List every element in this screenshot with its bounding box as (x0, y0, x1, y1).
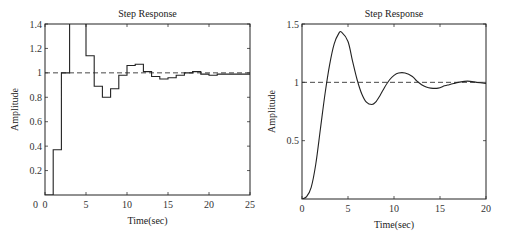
right-step-response-chart: Step ResponseTime(sec)Amplitude051015200… (266, 8, 491, 231)
y-tick-label: 0.2 (30, 165, 43, 176)
chart-title: Step Response (365, 8, 424, 19)
plot-frame (45, 24, 250, 195)
response-curve (45, 0, 250, 195)
left-step-response-chart: Step ResponseTime(sec)Amplitude051015202… (9, 0, 255, 227)
x-tick-label: 15 (163, 199, 173, 210)
x-tick-label: 10 (389, 203, 399, 214)
x-tick-label: 0 (300, 203, 305, 214)
x-axis-label: Time(sec) (374, 219, 414, 231)
y-axis-label: Amplitude (9, 88, 20, 131)
x-tick-label: 15 (435, 203, 445, 214)
x-tick-label: 10 (122, 199, 132, 210)
y-tick-label: 0.4 (30, 141, 43, 152)
y-tick-label: 0.5 (287, 135, 300, 146)
y-tick-label: 1.4 (30, 19, 43, 30)
y-tick-label: 0 (33, 199, 38, 210)
x-tick-label: 20 (204, 199, 214, 210)
y-tick-label: 1 (37, 67, 42, 78)
plot-frame (302, 24, 486, 199)
y-axis-label: Amplitude (266, 90, 277, 133)
x-axis-label: Time(sec) (127, 215, 167, 227)
response-curve (302, 31, 486, 199)
chart-title: Step Response (118, 8, 177, 19)
x-tick-label: 5 (346, 203, 351, 214)
y-tick-label: 1.5 (287, 19, 300, 30)
charts-canvas: Step ResponseTime(sec)Amplitude051015202… (0, 0, 524, 239)
y-tick-label: 0.8 (30, 92, 43, 103)
x-tick-label: 5 (84, 199, 89, 210)
x-tick-label: 25 (245, 199, 255, 210)
y-tick-label: 1.2 (30, 43, 43, 54)
y-tick-label: 1 (294, 77, 299, 88)
y-tick-label: 0.6 (30, 116, 43, 127)
x-tick-label: 20 (481, 203, 491, 214)
x-tick-label: 0 (43, 199, 48, 210)
